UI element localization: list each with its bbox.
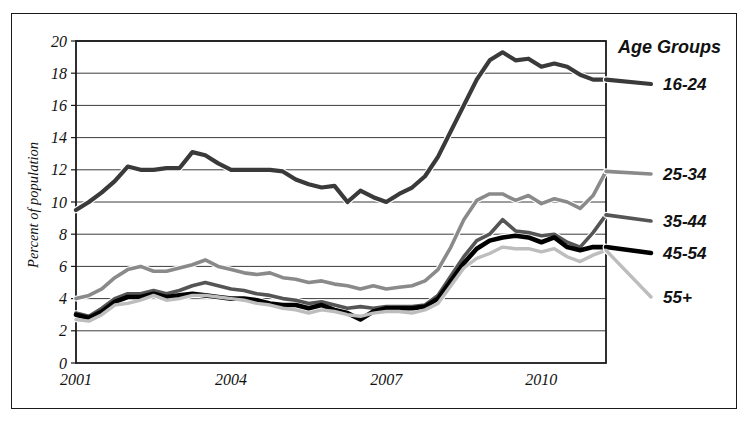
- series-halo-35-44: [76, 215, 606, 316]
- chart-figure: 02468101214161820 2001200420072010 Perce…: [0, 0, 747, 424]
- y-tick-label: 18: [51, 65, 67, 82]
- y-axis-title: Percent of population: [25, 142, 41, 269]
- series-line-16-24[interactable]: [76, 52, 606, 210]
- y-tick-label: 20: [51, 33, 67, 50]
- x-tick-label: 2010: [525, 371, 557, 388]
- y-tick-label: 2: [59, 322, 67, 339]
- legend-leader-lines: [606, 80, 651, 297]
- y-tick-label: 16: [51, 97, 67, 114]
- x-axis-tick-labels: 2001200420072010: [60, 371, 557, 388]
- leader-line-45-54: [606, 247, 651, 253]
- legend-label-25-34[interactable]: 25-34: [662, 165, 707, 184]
- data-series-group: [76, 52, 606, 321]
- y-axis-tick-labels: 02468101214161820: [51, 33, 76, 372]
- x-tick-label: 2007: [370, 371, 403, 388]
- legend-label-16-24[interactable]: 16-24: [663, 75, 707, 94]
- y-tick-label: 6: [59, 258, 67, 275]
- y-tick-label: 0: [59, 355, 67, 372]
- legend-title: Age Groups: [617, 37, 721, 57]
- y-tick-label: 8: [59, 226, 67, 243]
- y-tick-label: 12: [51, 161, 67, 178]
- y-tick-label: 10: [51, 194, 67, 211]
- legend-labels-group: 16-2425-3435-4445-5455+: [662, 75, 707, 307]
- legend-label-35-44[interactable]: 35-44: [663, 212, 707, 231]
- x-tick-label: 2001: [60, 371, 92, 388]
- y-tick-label: 4: [59, 290, 67, 307]
- y-tick-label: 14: [51, 129, 67, 146]
- legend-label-45-54[interactable]: 45-54: [662, 244, 707, 263]
- x-tick-label: 2004: [215, 371, 247, 388]
- legend-label-55+[interactable]: 55+: [663, 288, 692, 307]
- line-chart: 02468101214161820 2001200420072010 Perce…: [0, 0, 747, 424]
- leader-line-55+: [606, 250, 651, 297]
- series-halo-16-24: [76, 52, 606, 210]
